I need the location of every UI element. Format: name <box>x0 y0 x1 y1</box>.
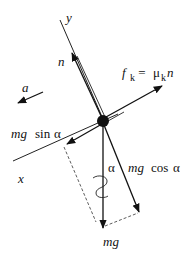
svg-text:f: f <box>122 65 128 80</box>
svg-text:k: k <box>161 72 166 83</box>
normal-force-label: n <box>58 54 65 69</box>
weight-parallel-label: mg sin α <box>11 126 61 141</box>
angle-arc-mark <box>93 176 108 198</box>
x-axis-label: x <box>17 171 24 186</box>
weight-label: mg <box>103 234 119 249</box>
svg-text:μ: μ <box>153 65 160 80</box>
component-dashed-line-left <box>64 147 96 222</box>
weight-perpendicular-label: mg cos α <box>128 160 180 175</box>
component-dashed-line-bottom <box>105 213 138 226</box>
friction-force-vector <box>106 86 162 117</box>
acceleration-label: a <box>22 80 29 95</box>
y-axis <box>60 20 106 126</box>
svg-text:mg: mg <box>11 126 27 141</box>
angle-label: α <box>108 160 115 175</box>
friction-force-label: f k = μ k n <box>122 65 174 83</box>
normal-force-vector <box>72 53 102 118</box>
svg-text:=: = <box>135 65 149 80</box>
svg-text:cos: cos <box>151 160 168 175</box>
svg-text:n: n <box>167 65 174 80</box>
free-body-diagram: y x n f k = μ k n a mg sin α mg mg cos α… <box>0 0 193 254</box>
normal-force-shadow-line <box>77 56 105 117</box>
y-axis-label: y <box>64 10 72 25</box>
svg-text:mg: mg <box>128 160 144 175</box>
point-mass <box>97 115 109 127</box>
svg-text:α: α <box>54 126 61 141</box>
svg-text:sin: sin <box>35 126 51 141</box>
friction-force-shadow-line <box>108 112 124 121</box>
svg-text:α: α <box>173 160 180 175</box>
